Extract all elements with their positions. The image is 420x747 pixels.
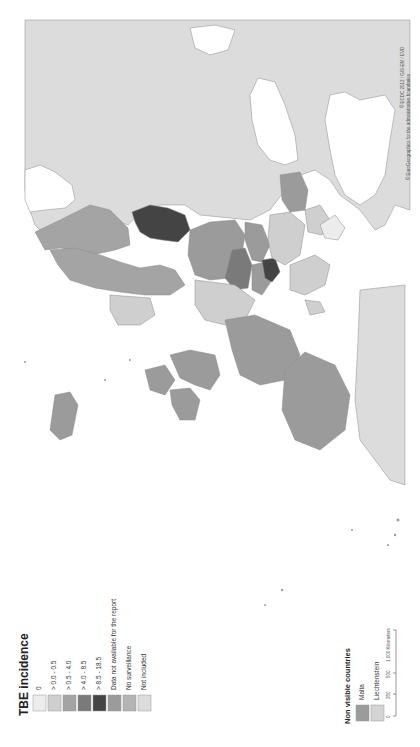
nv-label-liechtenstein: Liechtenstein bbox=[373, 662, 380, 700]
region-not-included-right bbox=[355, 285, 405, 485]
legend-label-5: Data not available for the report bbox=[110, 599, 117, 690]
region-data-na-iberia bbox=[282, 352, 350, 450]
legend-swatch-3 bbox=[78, 695, 91, 711]
credit-eurogeographics: © EuroGeographics for the administrative… bbox=[406, 74, 411, 180]
legend-swatch-1 bbox=[48, 695, 61, 711]
legend-label-7: Not included bbox=[140, 654, 147, 690]
non-visible-title: Non visible countries bbox=[343, 648, 352, 724]
credit-ecdc: © ECDC 2012 / GIS-EM / EVD bbox=[400, 47, 405, 108]
legend-swatch-6 bbox=[123, 695, 136, 711]
legend-label-2: > 0.5 - 4.0 bbox=[65, 661, 72, 690]
region-data-na-4 bbox=[280, 172, 308, 212]
scale-bar bbox=[393, 630, 396, 716]
region-low-greece bbox=[110, 295, 155, 325]
region-low-italy bbox=[290, 255, 330, 295]
legend-label-0: 0 bbox=[35, 686, 42, 690]
legend-swatch-7 bbox=[138, 695, 151, 711]
region-no-surv-ireland bbox=[50, 392, 78, 440]
tbe-incidence-map bbox=[0, 0, 420, 747]
nv-swatch-malta bbox=[356, 705, 369, 721]
region-no-surveillance-2 bbox=[50, 248, 185, 295]
legend-swatch-5 bbox=[108, 695, 121, 711]
scale-tick-0: 0 bbox=[386, 715, 391, 718]
region-low-2 bbox=[268, 212, 305, 265]
region-low-isles bbox=[305, 300, 325, 315]
legend-label-6: No surveillance bbox=[125, 646, 132, 690]
scale-tick-500: 500 bbox=[386, 670, 391, 678]
map-land bbox=[25, 20, 410, 485]
region-no-surv-scand bbox=[170, 388, 200, 420]
legend-label-1: > 0.0 - 0.5 bbox=[50, 661, 57, 690]
scale-tick-250: 250 bbox=[386, 691, 391, 699]
legend-label-4: > 8.5 - 18.5 bbox=[95, 657, 102, 690]
legend-swatch-0 bbox=[33, 695, 46, 711]
legend-label-3: > 4.0 - 8.5 bbox=[80, 661, 87, 690]
scale-tick-1000: 1,000 Kilometers bbox=[386, 628, 391, 662]
region-no-surv-west bbox=[170, 350, 220, 390]
legend-swatch-4 bbox=[93, 695, 106, 711]
legend-swatch-2 bbox=[63, 695, 76, 711]
region-high-incidence bbox=[132, 205, 190, 242]
nv-swatch-liechtenstein bbox=[371, 705, 384, 721]
legend-title: TBE incidence bbox=[17, 633, 31, 716]
legend-swatches bbox=[33, 695, 384, 721]
nv-label-malta: Malta bbox=[358, 684, 365, 700]
region-data-na-2 bbox=[245, 222, 270, 262]
